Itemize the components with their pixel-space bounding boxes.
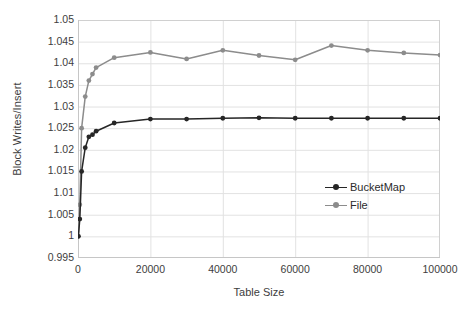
data-point	[112, 55, 117, 60]
data-point	[148, 117, 153, 122]
y-tick-label: 1.04	[28, 57, 74, 68]
data-point	[365, 48, 370, 53]
y-axis-tick-labels: 0.99511.0051.011.0151.021.0251.031.0351.…	[26, 0, 74, 315]
chart-legend: BucketMap File	[325, 178, 405, 214]
data-point	[220, 116, 225, 121]
x-tick-label: 0	[75, 263, 81, 275]
y-axis-title-text: Block Writes/Insert	[11, 82, 23, 175]
y-tick-label: 1.02	[28, 144, 74, 155]
data-point	[94, 129, 99, 134]
x-axis-title: Table Size	[78, 286, 440, 298]
data-point	[94, 65, 99, 70]
data-point	[365, 116, 370, 121]
plot-svg	[78, 20, 440, 258]
y-tick-label: 1.01	[28, 187, 74, 198]
data-point	[112, 121, 117, 126]
y-tick-label: 1.045	[28, 36, 74, 47]
legend-label-bucketmap: BucketMap	[349, 181, 405, 193]
data-point	[86, 78, 91, 83]
data-point	[184, 57, 189, 62]
y-tick-label: 1.03	[28, 101, 74, 112]
data-point	[79, 126, 84, 131]
data-point	[220, 48, 225, 53]
legend-swatch-file	[325, 199, 347, 211]
data-point	[401, 50, 406, 55]
data-point	[90, 72, 95, 77]
data-point	[78, 234, 81, 239]
y-axis-title: Block Writes/Insert	[6, 0, 28, 258]
y-tick-label: 1.015	[28, 165, 74, 176]
x-tick-label: 100000	[422, 263, 457, 275]
data-point	[438, 53, 440, 58]
x-tick-label: 40000	[208, 263, 237, 275]
legend-swatch-bucketmap	[325, 181, 347, 193]
plot-area	[78, 20, 440, 258]
data-point	[83, 145, 88, 150]
y-tick-label: 0.995	[28, 252, 74, 263]
legend-item-file: File	[325, 196, 405, 214]
x-tick-label: 60000	[281, 263, 310, 275]
y-tick-label: 1.035	[28, 79, 74, 90]
data-point	[329, 43, 334, 48]
legend-label-file: File	[349, 199, 368, 211]
data-point	[293, 116, 298, 121]
x-tick-label: 20000	[136, 263, 165, 275]
data-point	[257, 53, 262, 58]
data-point	[79, 169, 84, 174]
data-point	[78, 217, 82, 222]
y-tick-label: 1	[28, 230, 74, 241]
data-point	[184, 117, 189, 122]
legend-item-bucketmap: BucketMap	[325, 178, 405, 196]
data-point	[438, 116, 440, 121]
y-tick-label: 1.025	[28, 122, 74, 133]
y-tick-label: 1.05	[28, 14, 74, 25]
data-point	[148, 50, 153, 55]
y-tick-label: 1.005	[28, 209, 74, 220]
data-point	[83, 94, 88, 99]
data-point	[329, 116, 334, 121]
data-point	[293, 57, 298, 62]
data-point	[257, 115, 262, 120]
data-point	[90, 132, 95, 137]
x-tick-label: 80000	[353, 263, 382, 275]
data-point	[401, 116, 406, 121]
